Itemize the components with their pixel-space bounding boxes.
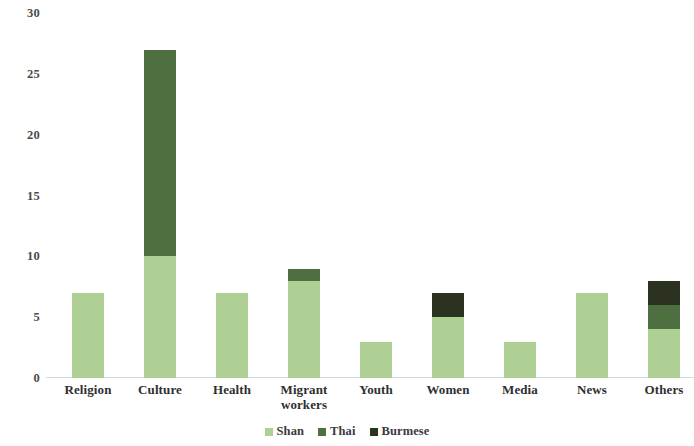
legend-item[interactable]: Thai: [318, 424, 355, 439]
y-axis-tick-label: 10: [27, 249, 40, 264]
bar-group[interactable]: [144, 50, 176, 378]
bar-group[interactable]: [504, 342, 536, 379]
bar-segment-thai[interactable]: [648, 305, 680, 329]
bar-segment-shan[interactable]: [504, 342, 536, 379]
x-axis-tick-label: Others: [618, 382, 694, 397]
y-axis: 051015202530: [0, 0, 46, 446]
legend-label: Thai: [330, 424, 355, 439]
stacked-bar-chart: 051015202530 ReligionCultureHealthMigran…: [0, 0, 694, 446]
bar-group[interactable]: [648, 281, 680, 378]
bar-group[interactable]: [360, 342, 392, 379]
y-axis-tick-label: 0: [34, 371, 40, 386]
y-axis-tick-label: 5: [34, 310, 40, 325]
legend-swatch-icon: [318, 428, 326, 436]
legend-swatch-icon: [265, 428, 273, 436]
bar-segment-burmese[interactable]: [432, 293, 464, 317]
bar-segment-thai[interactable]: [288, 269, 320, 281]
y-axis-tick-label: 30: [27, 6, 40, 21]
bar-segment-shan[interactable]: [288, 281, 320, 378]
legend-item[interactable]: Shan: [265, 424, 305, 439]
bar-segment-shan[interactable]: [72, 293, 104, 378]
legend-label: Shan: [277, 424, 305, 439]
bar-segment-thai[interactable]: [144, 50, 176, 257]
bar-group[interactable]: [432, 293, 464, 378]
x-axis-labels: ReligionCultureHealthMigrant workersYout…: [46, 382, 694, 426]
legend-item[interactable]: Burmese: [370, 424, 430, 439]
bar-segment-shan[interactable]: [144, 256, 176, 378]
bar-segment-shan[interactable]: [360, 342, 392, 379]
bar-segment-shan[interactable]: [648, 329, 680, 378]
bar-group[interactable]: [72, 293, 104, 378]
bar-segment-shan[interactable]: [576, 293, 608, 378]
y-axis-tick-label: 25: [27, 66, 40, 81]
chart-legend: ShanThaiBurmese: [0, 424, 694, 439]
legend-swatch-icon: [370, 428, 378, 436]
y-axis-tick-label: 15: [27, 188, 40, 203]
legend-label: Burmese: [382, 424, 430, 439]
bar-segment-shan[interactable]: [216, 293, 248, 378]
bar-group[interactable]: [216, 293, 248, 378]
bar-group[interactable]: [288, 269, 320, 378]
plot-area: [46, 13, 694, 378]
bar-group[interactable]: [576, 293, 608, 378]
bar-segment-burmese[interactable]: [648, 281, 680, 305]
bar-segment-shan[interactable]: [432, 317, 464, 378]
y-axis-tick-label: 20: [27, 127, 40, 142]
